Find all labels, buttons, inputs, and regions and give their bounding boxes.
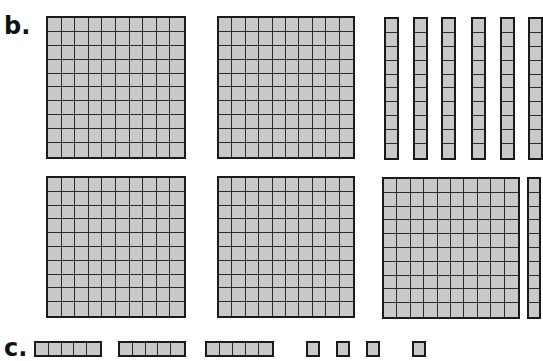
unit-cube bbox=[336, 341, 350, 357]
hundred-block bbox=[217, 16, 355, 159]
ten-rod bbox=[500, 17, 515, 160]
five-strip bbox=[205, 341, 274, 357]
unit-cube bbox=[412, 341, 426, 357]
hundred-block bbox=[46, 176, 186, 318]
hundred-block bbox=[217, 176, 355, 318]
section-label-c: c. bbox=[4, 336, 27, 360]
ten-rod bbox=[441, 17, 456, 160]
hundred-block bbox=[46, 16, 186, 159]
five-strip bbox=[34, 341, 102, 357]
unit-cube bbox=[306, 341, 320, 357]
ten-rod bbox=[413, 17, 428, 160]
five-strip bbox=[118, 341, 186, 357]
hundred-block bbox=[382, 177, 520, 319]
ten-rod bbox=[384, 17, 399, 160]
ten-rod bbox=[471, 17, 486, 160]
hundred-block bbox=[527, 177, 541, 319]
section-label-b: b. bbox=[4, 14, 30, 38]
unit-cube bbox=[366, 341, 380, 357]
ten-rod bbox=[528, 17, 543, 160]
